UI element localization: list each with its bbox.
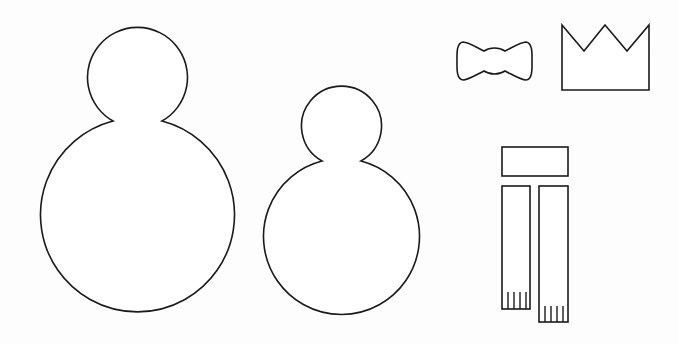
scarf: [502, 147, 568, 322]
crown: [562, 25, 649, 90]
small-snowman: [264, 86, 420, 314]
large-snowman-outline: [41, 27, 235, 311]
scarf-end-right: [539, 186, 568, 322]
bow-tie-outline: [457, 42, 532, 80]
small-snowman-outline: [264, 86, 420, 314]
template-canvas: [0, 0, 679, 344]
cutout-template: [0, 0, 679, 344]
bow-tie: [457, 42, 532, 80]
crown-outline: [562, 25, 649, 90]
scarf-end-left: [502, 186, 530, 309]
large-snowman: [41, 27, 235, 311]
scarf-band: [502, 147, 568, 176]
